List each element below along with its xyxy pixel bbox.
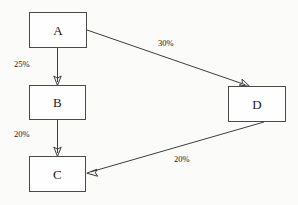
node-c-label: C: [53, 168, 62, 181]
node-b-label: B: [53, 96, 62, 109]
edge-d-to-c-line: [91, 122, 264, 172]
edge-a-to-b[interactable]: [54, 48, 61, 86]
node-a-label: A: [53, 24, 63, 37]
node-b[interactable]: B: [29, 85, 86, 120]
node-a[interactable]: A: [29, 12, 87, 48]
edge-b-to-c[interactable]: [54, 120, 61, 157]
edge-label-d-to-c: 20%: [174, 155, 190, 164]
diagram-canvas: A B C D 25% 20% 30% 20%: [0, 0, 298, 205]
edge-label-a-to-d: 30%: [158, 39, 174, 48]
node-c[interactable]: C: [29, 156, 86, 192]
edge-label-b-to-c: 20%: [14, 130, 30, 139]
node-d-label: D: [252, 98, 262, 111]
edge-d-to-c-arrowhead: [87, 169, 98, 176]
edge-d-to-c[interactable]: [87, 122, 264, 176]
node-d[interactable]: D: [228, 86, 286, 122]
edge-label-a-to-b: 25%: [14, 60, 30, 69]
